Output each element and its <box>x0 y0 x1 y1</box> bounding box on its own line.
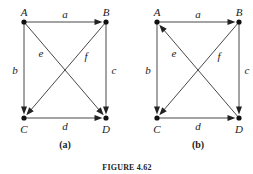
node-label-C: C <box>153 123 161 135</box>
node-label-A: A <box>153 6 161 18</box>
edge-label-b: b <box>145 64 151 76</box>
edge-label-c: c <box>112 64 117 76</box>
arrowhead-c <box>236 107 242 115</box>
arrowhead-d <box>95 115 103 121</box>
node-C <box>154 115 159 120</box>
node-label-D: D <box>101 123 110 135</box>
sub-caption-a: (a) <box>59 139 71 151</box>
node-label-B: B <box>236 6 243 18</box>
sub-caption-b: (b) <box>192 139 204 151</box>
edge-f <box>162 22 239 112</box>
node-A <box>154 19 159 24</box>
edge-e <box>24 22 101 112</box>
graph-b: abcdefABCD <box>145 6 249 135</box>
node-A <box>21 19 26 24</box>
edge-label-d: d <box>195 120 201 132</box>
edge-label-a: a <box>195 8 201 20</box>
edge-label-b: b <box>12 64 18 76</box>
edge-f <box>29 22 106 112</box>
figure-canvas: abcdefABCD abcdefABCD (a) (b) FIGURE 4.6… <box>0 0 253 174</box>
arrowhead-a <box>95 19 103 25</box>
arrowhead-b <box>21 107 27 115</box>
edge-label-f: f <box>217 50 222 62</box>
figure-caption: FIGURE 4.62 <box>102 163 151 172</box>
edge-label-f: f <box>84 50 89 62</box>
edge-label-e: e <box>172 47 177 59</box>
node-D <box>236 115 241 120</box>
node-B <box>103 19 108 24</box>
edge-e <box>162 28 239 118</box>
node-label-D: D <box>234 123 243 135</box>
node-label-B: B <box>103 6 110 18</box>
arrowhead-b <box>154 107 160 115</box>
edge-label-e: e <box>39 47 44 59</box>
edge-label-d: d <box>62 120 68 132</box>
graph-a: abcdefABCD <box>12 6 116 135</box>
node-C <box>21 115 26 120</box>
node-D <box>103 115 108 120</box>
edge-label-c: c <box>245 64 250 76</box>
edge-label-a: a <box>62 8 68 20</box>
node-label-C: C <box>20 123 28 135</box>
arrowhead-a <box>228 19 236 25</box>
arrowhead-c <box>103 107 109 115</box>
node-label-A: A <box>20 6 28 18</box>
node-B <box>236 19 241 24</box>
arrowhead-d <box>228 115 236 121</box>
